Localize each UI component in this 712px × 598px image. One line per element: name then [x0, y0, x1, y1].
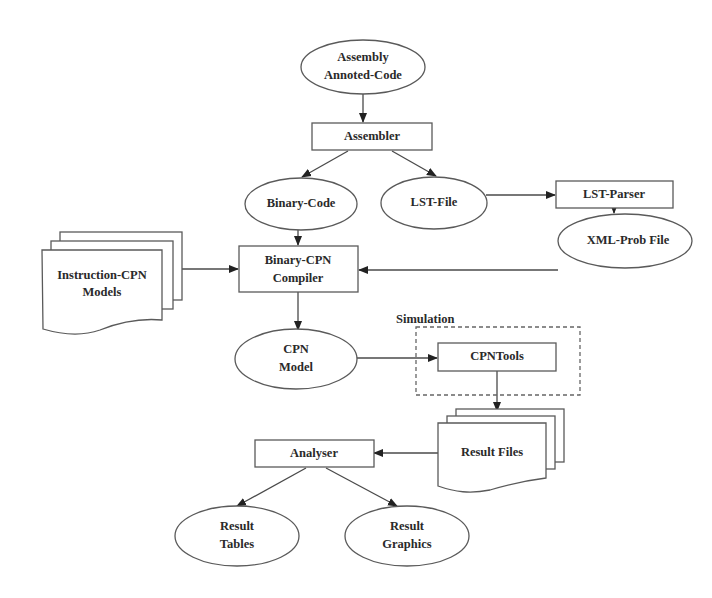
edge-analyser-to-result-tables — [237, 468, 306, 506]
edge-assembler-to-binary-code — [302, 151, 348, 177]
node-label: CPNTools — [470, 349, 524, 363]
node-label: Model — [279, 360, 314, 374]
node-instruction-cpn-models[interactable]: Instruction-CPN Models — [42, 232, 182, 334]
node-lst-file[interactable]: LST-File — [381, 177, 487, 229]
node-label: Analyser — [290, 446, 338, 460]
node-analyser[interactable]: Analyser — [255, 440, 374, 467]
node-label: Annoted-Code — [324, 68, 402, 82]
node-label: Assembler — [344, 129, 401, 143]
node-label: Result — [390, 519, 425, 533]
node-label: Models — [83, 285, 122, 299]
node-label: Instruction-CPN — [57, 268, 147, 282]
edge-assembler-to-lst-file — [392, 151, 436, 176]
node-cpntools[interactable]: CPNTools — [438, 343, 556, 371]
node-label: Assembly — [337, 50, 389, 64]
node-label: CPN — [283, 342, 309, 356]
flowchart-canvas: Simulation Assembly Annoted-Code Assembl… — [0, 0, 712, 598]
node-result-files[interactable]: Result Files — [438, 409, 564, 492]
node-xml-prob-file[interactable]: XML-Prob File — [558, 214, 692, 268]
node-result-graphics[interactable]: Result Graphics — [345, 506, 469, 566]
node-assembly-annoted-code[interactable]: Assembly Annoted-Code — [301, 40, 425, 94]
edge-analyser-to-result-graphics — [326, 468, 397, 506]
node-label: XML-Prob File — [587, 233, 670, 247]
node-label: Result Files — [461, 445, 523, 459]
node-result-tables[interactable]: Result Tables — [175, 506, 299, 566]
node-label: Binary-CPN — [265, 253, 332, 267]
simulation-label: Simulation — [396, 312, 454, 326]
node-label: LST-File — [411, 195, 458, 209]
node-label: LST-Parser — [583, 187, 645, 201]
node-label: Compiler — [273, 271, 324, 285]
node-label: Tables — [220, 537, 254, 551]
node-binary-code[interactable]: Binary-Code — [245, 178, 357, 230]
node-lst-parser[interactable]: LST-Parser — [556, 181, 673, 208]
node-label: Binary-Code — [267, 196, 336, 210]
node-label: Graphics — [382, 537, 431, 551]
node-cpn-model[interactable]: CPN Model — [235, 329, 357, 389]
node-assembler[interactable]: Assembler — [312, 123, 432, 150]
node-binary-cpn-compiler[interactable]: Binary-CPN Compiler — [239, 246, 358, 292]
node-label: Result — [220, 519, 255, 533]
